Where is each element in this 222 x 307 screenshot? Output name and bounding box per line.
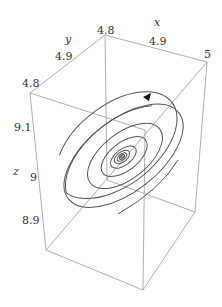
bounding-box — [30, 35, 207, 290]
box-edge-bottom-front-right — [143, 212, 195, 290]
z-tick-9: 9 — [30, 171, 37, 184]
x-tick-4.9: 4.9 — [149, 35, 167, 48]
z-tick-8.9: 8.9 — [22, 214, 40, 227]
3d-plot: x 4.8 4.9 5 y 4.9 4.8 9.1 z 9 8.9 — [0, 0, 222, 307]
spiral-loop-6 — [116, 151, 128, 163]
y-axis-label: y — [64, 33, 72, 46]
z-tick-9.1: 9.1 — [14, 121, 32, 134]
x-axis-label: x — [154, 16, 161, 29]
x-tick-4.8: 4.8 — [97, 24, 115, 37]
spiral-loop-5 — [112, 148, 132, 167]
box-edge-back-vertical — [105, 35, 107, 180]
x-tick-5: 5 — [204, 48, 211, 61]
box-edge-bottom-front-left — [46, 250, 143, 290]
z-axis-label: z — [12, 165, 19, 178]
trajectory-curve — [36, 71, 202, 228]
y-tick-4.9: 4.9 — [55, 50, 73, 63]
y-tick-4.8: 4.8 — [22, 77, 40, 90]
direction-arrow-icon — [143, 93, 151, 101]
box-edge-right-vertical — [195, 62, 207, 212]
